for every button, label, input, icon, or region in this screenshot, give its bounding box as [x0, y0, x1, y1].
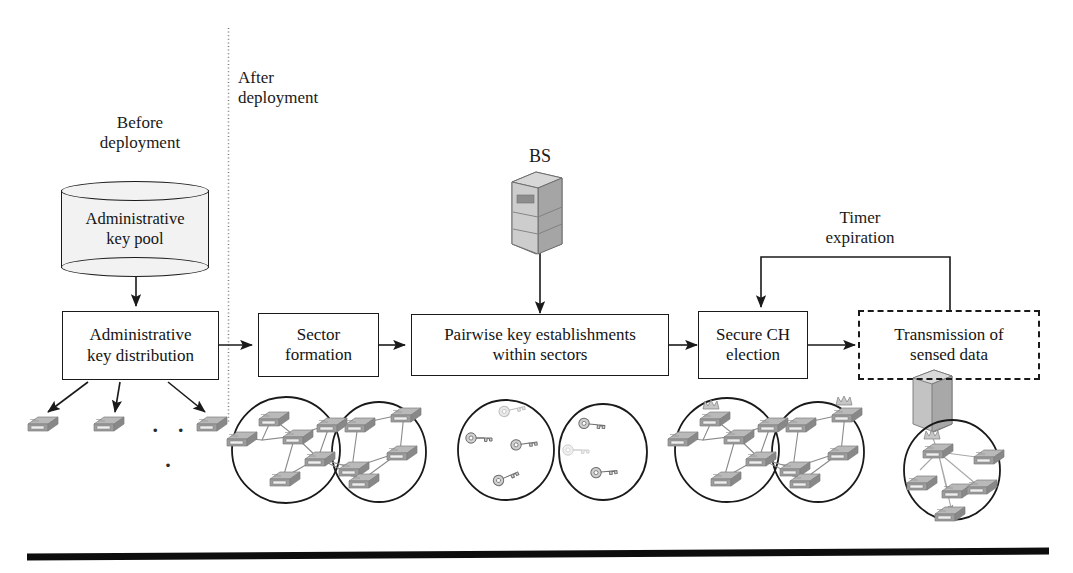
diagram-canvas: Before deployment After deployment BS Ti… [0, 0, 1073, 573]
diagram-vector-overlay [0, 0, 1073, 573]
label-after-deployment: After deployment [238, 68, 428, 108]
node-secure-ch-election[interactable]: Secure CH election [698, 311, 808, 379]
label-base-station: BS [500, 146, 580, 167]
bottom-rule [27, 551, 1049, 557]
node-admin-key-pool[interactable]: Administrative key pool [61, 181, 209, 277]
node-transmission-sensed-data[interactable]: Transmission of sensed data [858, 310, 1040, 380]
illustration-data-transmission [904, 370, 1004, 521]
illustration-ch-clusters [668, 396, 864, 502]
node-admin-key-distribution[interactable]: Administrative key distribution [62, 311, 219, 380]
node-transmission-sensed-data-label: Transmission of sensed data [894, 325, 1003, 366]
node-admin-key-distribution-label: Administrative key distribution [87, 325, 194, 366]
node-admin-key-pool-label: Administrative key pool [61, 181, 209, 277]
node-secure-ch-election-label: Secure CH election [716, 325, 790, 366]
illustration-sector-clusters [227, 397, 426, 503]
node-sector-formation-label: Sector formation [285, 325, 352, 366]
label-timer-expiration: Timer expiration [770, 208, 950, 248]
node-sector-formation[interactable]: Sector formation [258, 313, 379, 377]
node-pairwise-key-establishments-label: Pairwise key establishments within secto… [444, 325, 636, 366]
illustration-key-sectors [458, 400, 647, 500]
base-station-icon [512, 172, 562, 254]
node-pairwise-key-establishments[interactable]: Pairwise key establishments within secto… [411, 314, 669, 376]
label-ellipsis: · · · [140, 412, 200, 483]
label-before-deployment: Before deployment [60, 113, 220, 153]
connector-timer-expiration-loop [761, 257, 950, 311]
